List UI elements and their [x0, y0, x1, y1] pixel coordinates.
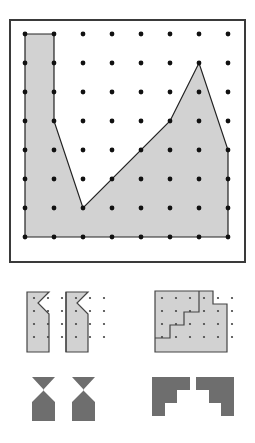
grid-dot	[103, 310, 105, 312]
grid-dot	[61, 310, 63, 312]
grid-dot	[33, 297, 35, 299]
grid-dot	[168, 177, 173, 182]
grid-dot	[75, 310, 77, 312]
grid-dot	[23, 90, 28, 95]
grid-dot	[175, 310, 177, 312]
grid-dot	[189, 310, 191, 312]
grid-dot	[197, 148, 202, 153]
grid-dot	[139, 61, 144, 66]
grid-dot	[168, 119, 173, 124]
grid-dot	[217, 323, 219, 325]
grid-dot	[217, 336, 219, 338]
grid-dot	[52, 61, 57, 66]
grid-dot	[89, 336, 91, 338]
grid-dot	[226, 148, 231, 153]
grid-dot	[81, 235, 86, 240]
figure-root	[0, 0, 255, 443]
grid-dot	[226, 61, 231, 66]
grid-dot	[139, 119, 144, 124]
grid-dot	[203, 336, 205, 338]
grid-dot	[168, 32, 173, 37]
grid-dot	[89, 297, 91, 299]
grid-dot	[168, 61, 173, 66]
grid-dot	[110, 61, 115, 66]
grid-dot	[33, 323, 35, 325]
grid-dot	[81, 90, 86, 95]
grid-dot	[110, 32, 115, 37]
grid-dot	[168, 90, 173, 95]
grid-dot	[197, 119, 202, 124]
grid-dot	[110, 148, 115, 153]
grid-dot	[203, 323, 205, 325]
grid-dot	[75, 336, 77, 338]
grid-dot	[103, 297, 105, 299]
grid-dot	[226, 206, 231, 211]
grid-dot	[197, 32, 202, 37]
grid-dot	[231, 323, 233, 325]
worksheet-canvas	[0, 0, 255, 443]
grid-dot	[161, 310, 163, 312]
grid-dot	[81, 32, 86, 37]
grid-dot	[23, 206, 28, 211]
grid-dot	[139, 90, 144, 95]
grid-dot	[52, 206, 57, 211]
grid-dot	[110, 235, 115, 240]
grid-dot	[226, 235, 231, 240]
grid-dot	[231, 310, 233, 312]
grid-dot	[23, 119, 28, 124]
grid-dot	[47, 297, 49, 299]
grid-dot	[81, 148, 86, 153]
grid-dot	[23, 148, 28, 153]
grid-dot	[33, 310, 35, 312]
grid-dot	[161, 323, 163, 325]
grid-dot	[110, 119, 115, 124]
grid-dot	[47, 310, 49, 312]
grid-dot	[231, 297, 233, 299]
grid-dot	[81, 119, 86, 124]
grid-dot	[61, 336, 63, 338]
grid-dot	[226, 177, 231, 182]
grid-dot	[231, 336, 233, 338]
grid-dot	[81, 206, 86, 211]
grid-dot	[110, 206, 115, 211]
grid-dot	[47, 336, 49, 338]
grid-dot	[161, 297, 163, 299]
grid-dot	[197, 235, 202, 240]
grid-dot	[197, 206, 202, 211]
grid-dot	[81, 61, 86, 66]
grid-dot	[52, 90, 57, 95]
grid-dot	[52, 148, 57, 153]
grid-dot	[139, 148, 144, 153]
grid-dot	[189, 336, 191, 338]
grid-dot	[226, 119, 231, 124]
grid-dot	[139, 177, 144, 182]
grid-dot	[110, 177, 115, 182]
grid-dot	[89, 310, 91, 312]
grid-dot	[23, 61, 28, 66]
grid-dot	[61, 323, 63, 325]
grid-dot	[61, 297, 63, 299]
grid-dot	[168, 235, 173, 240]
grid-dot	[217, 310, 219, 312]
grid-dot	[226, 32, 231, 37]
grid-dot	[197, 90, 202, 95]
grid-dot	[139, 235, 144, 240]
grid-dot	[23, 235, 28, 240]
grid-dot	[139, 32, 144, 37]
grid-dot	[168, 206, 173, 211]
grid-dot	[81, 177, 86, 182]
grid-dot	[161, 336, 163, 338]
grid-dot	[52, 32, 57, 37]
grid-dot	[33, 336, 35, 338]
grid-dot	[52, 119, 57, 124]
grid-dot	[89, 323, 91, 325]
grid-dot	[23, 177, 28, 182]
grid-dot	[168, 148, 173, 153]
grid-dot	[203, 310, 205, 312]
grid-dot	[52, 235, 57, 240]
grid-dot	[197, 61, 202, 66]
grid-dot	[110, 90, 115, 95]
grid-dot	[75, 297, 77, 299]
grid-dot	[103, 336, 105, 338]
grid-dot	[217, 297, 219, 299]
